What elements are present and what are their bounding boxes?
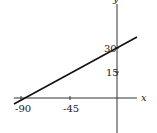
x-axis-label: x [141,92,147,103]
x-tick-label-neg45: -45 [63,103,79,114]
y-tick-label-15: 15 [106,67,119,78]
y-tick-label-30: 30 [104,43,117,54]
y-axis-label: y [112,0,119,4]
x-tick-label-neg90: -90 [15,103,31,114]
line-chart: -90 -45 30 15 x y [0,0,157,133]
